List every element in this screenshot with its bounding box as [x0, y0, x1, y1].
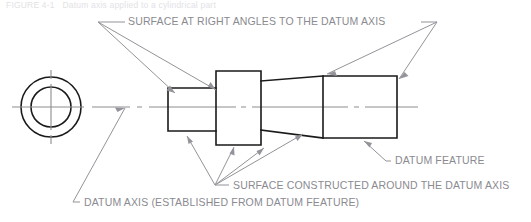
top-note-leader-3-arrowhead: [399, 72, 409, 79]
top-note-group: SURFACE AT RIGHT ANGLES TO THE DATUM AXI…: [98, 15, 437, 93]
datum-feature-label: DATUM FEATURE: [395, 154, 485, 166]
center-block-outline: [216, 71, 261, 145]
engineering-drawing-canvas: FIGURE 4-1 Datum axis applied to a cylin…: [0, 0, 531, 222]
technical-drawing-figure: FIGURE 4-1 Datum axis applied to a cylin…: [0, 0, 531, 222]
top-note-label: SURFACE AT RIGHT ANGLES TO THE DATUM AXI…: [128, 15, 385, 27]
surface-constructed-leader-3-arrowhead: [257, 148, 265, 156]
surface-constructed-label: SURFACE CONSTRUCTED AROUND THE DATUM AXI…: [233, 179, 509, 191]
surface-constructed-leader-1: [187, 136, 215, 185]
top-note-leader-2: [98, 22, 175, 93]
datum-axis-leader: [73, 108, 125, 202]
top-note-leader-1: [98, 22, 216, 90]
datum-axis-label: DATUM AXIS (ESTABLISHED FROM DATUM FEATU…: [84, 196, 359, 208]
figure-caption-partial: FIGURE 4-1 Datum axis applied to a cylin…: [6, 0, 216, 10]
datum-feature-note-group: DATUM FEATURE: [364, 141, 485, 166]
surface-constructed-leader-1-arrowhead: [187, 136, 193, 144]
top-note-leader-4: [327, 22, 437, 74]
small-cylinder-outline: [168, 88, 216, 131]
